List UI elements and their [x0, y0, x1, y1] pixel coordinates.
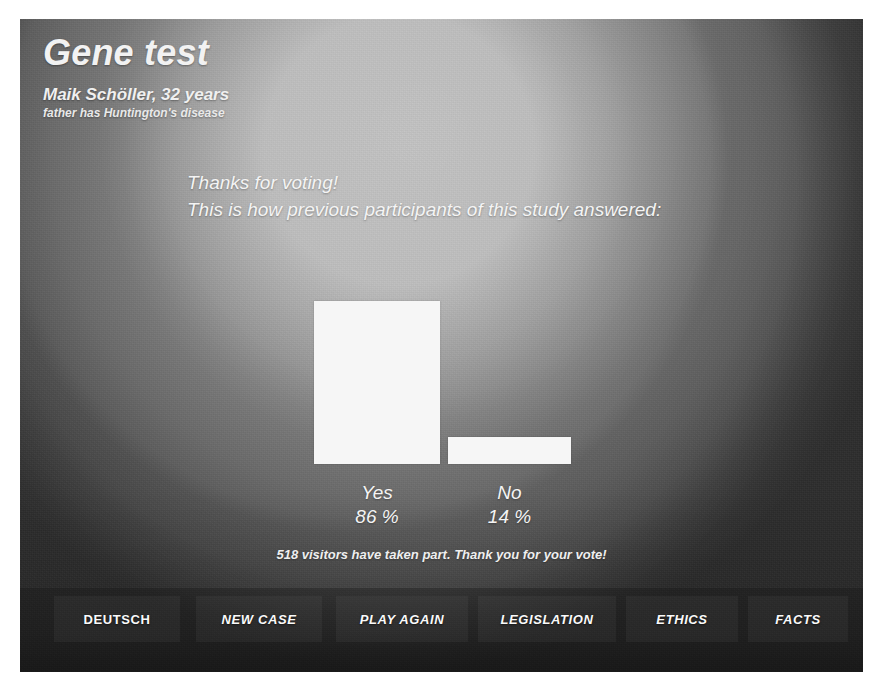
- bar-caption-no: No 14 %: [448, 481, 571, 529]
- bar-value-yes: 86 %: [314, 505, 440, 529]
- nav-label-play-again: PLAY AGAIN: [360, 612, 445, 627]
- header: Gene test Maik Schöller, 32 years father…: [43, 33, 229, 121]
- nav-button-ethics[interactable]: ETHICS: [626, 596, 738, 642]
- visitor-count-note: 518 visitors have taken part. Thank you …: [20, 547, 863, 562]
- bottom-navigation: DEUTSCH NEW CASE PLAY AGAIN LEGISLATION …: [20, 588, 863, 672]
- thanks-message: Thanks for voting! This is how previous …: [187, 169, 661, 223]
- bar-yes: [314, 301, 440, 464]
- photo-frame: Gene test Maik Schöller, 32 years father…: [0, 0, 882, 693]
- nav-button-deutsch[interactable]: DEUTSCH: [54, 596, 180, 642]
- nav-label-legislation: LEGISLATION: [500, 612, 593, 627]
- bar-label-no: No: [448, 481, 571, 505]
- patient-name: Maik Schöller, 32 years: [43, 85, 229, 105]
- nav-button-new-case[interactable]: NEW CASE: [196, 596, 322, 642]
- nav-button-facts[interactable]: FACTS: [748, 596, 848, 642]
- page-title: Gene test: [43, 33, 229, 73]
- bar-no: [448, 437, 571, 464]
- thanks-line-2: This is how previous participants of thi…: [187, 196, 661, 223]
- nav-label-new-case: NEW CASE: [222, 612, 297, 627]
- nav-label-deutsch: DEUTSCH: [83, 612, 150, 627]
- presentation-screen: Gene test Maik Schöller, 32 years father…: [20, 19, 863, 672]
- bar-label-yes: Yes: [314, 481, 440, 505]
- nav-button-play-again[interactable]: PLAY AGAIN: [336, 596, 468, 642]
- thanks-line-1: Thanks for voting!: [187, 169, 661, 196]
- patient-condition: father has Huntington's disease: [43, 106, 229, 121]
- bar-caption-yes: Yes 86 %: [314, 481, 440, 529]
- nav-button-legislation[interactable]: LEGISLATION: [478, 596, 616, 642]
- bar-value-no: 14 %: [448, 505, 571, 529]
- nav-label-facts: FACTS: [775, 612, 821, 627]
- nav-label-ethics: ETHICS: [656, 612, 707, 627]
